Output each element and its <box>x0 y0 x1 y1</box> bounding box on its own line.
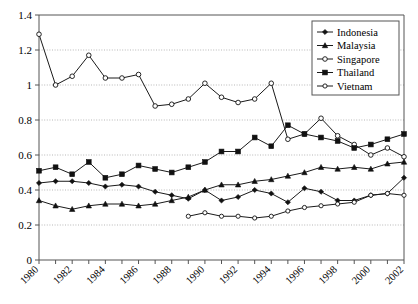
legend-item-label: Malaysia <box>337 40 376 51</box>
marker-square <box>37 168 42 173</box>
marker-square <box>252 135 257 140</box>
x-axis-tick-labels: 1980198219841986198819901992199419961998… <box>18 260 406 286</box>
marker-diamond <box>269 191 274 196</box>
marker-circle <box>53 83 58 88</box>
marker-circle-small <box>369 193 373 197</box>
marker-diamond <box>252 187 257 192</box>
marker-circle-small <box>253 216 257 220</box>
marker-square <box>269 144 274 149</box>
marker-circle <box>319 116 324 121</box>
marker-square <box>302 132 307 137</box>
marker-circle <box>269 81 274 86</box>
marker-square <box>236 149 241 154</box>
marker-circle <box>236 100 241 105</box>
marker-circle <box>252 97 257 102</box>
marker-square <box>86 160 91 165</box>
legend-item-label: Thailand <box>337 67 375 78</box>
marker-circle-small <box>269 214 273 218</box>
marker-square <box>136 163 141 168</box>
marker-square <box>53 165 58 170</box>
y-tick-label: 1 <box>27 79 33 91</box>
series-malaysia <box>36 159 406 211</box>
marker-circle <box>169 102 174 107</box>
line-chart: 00.20.40.60.811.21.4 1980198219841986198… <box>0 0 418 304</box>
marker-circle <box>86 53 91 58</box>
x-tick-label: 1992 <box>217 264 240 287</box>
marker-circle-small <box>319 204 323 208</box>
marker-circle-small <box>286 209 290 213</box>
marker-square <box>120 172 125 177</box>
marker-circle-small <box>385 191 389 195</box>
marker-circle <box>186 97 191 102</box>
chart-legend: IndonesiaMalaysiaSingaporeThailandVietna… <box>312 21 399 95</box>
marker-circle <box>37 32 42 37</box>
marker-diamond <box>36 180 41 185</box>
x-tick-label: 1984 <box>84 263 107 286</box>
marker-diamond <box>86 180 91 185</box>
y-tick-label: 1.2 <box>18 44 32 56</box>
marker-square <box>385 137 390 142</box>
marker-square <box>169 170 174 175</box>
marker-square <box>103 175 108 180</box>
marker-diamond <box>103 184 108 189</box>
x-tick-label: 2000 <box>350 264 373 287</box>
marker-square <box>203 160 208 165</box>
marker-circle-small <box>219 214 223 218</box>
legend-item-label: Indonesia <box>337 27 378 38</box>
marker-square <box>186 165 191 170</box>
y-tick-label: 0.6 <box>18 149 32 161</box>
x-tick-label: 1990 <box>184 264 207 287</box>
legend-item-label: Singapore <box>337 54 380 65</box>
marker-diamond <box>119 182 124 187</box>
marker-circle <box>286 137 291 142</box>
marker-circle <box>120 76 125 81</box>
marker-circle-small <box>336 202 340 206</box>
marker-diamond <box>136 184 141 189</box>
x-tick-label: 1986 <box>117 264 140 287</box>
marker-square <box>368 142 373 147</box>
marker-circle <box>335 133 340 138</box>
marker-circle <box>385 146 390 151</box>
marker-diamond <box>219 198 224 203</box>
marker-circle-small <box>402 193 406 197</box>
x-tick-label: 1980 <box>18 264 41 287</box>
marker-diamond <box>235 194 240 199</box>
marker-circle <box>153 104 158 109</box>
x-tick-label: 2002 <box>383 264 406 287</box>
marker-square <box>219 149 224 154</box>
marker-circle <box>70 74 75 79</box>
marker-circle-small <box>323 84 327 88</box>
y-tick-label: 0.2 <box>18 219 32 231</box>
marker-circle <box>219 95 224 100</box>
marker-square <box>153 167 158 172</box>
marker-square <box>402 132 407 137</box>
x-tick-label: 1994 <box>250 263 273 286</box>
y-tick-label: 1.4 <box>18 9 32 21</box>
marker-triangle <box>36 198 41 203</box>
marker-circle-small <box>352 200 356 204</box>
y-axis-tick-labels: 00.20.40.60.811.21.4 <box>18 9 39 266</box>
marker-diamond <box>53 179 58 184</box>
legend-item-label: Vietnam <box>337 81 373 92</box>
y-tick-label: 0.4 <box>18 184 32 196</box>
marker-square <box>335 139 340 144</box>
x-tick-label: 1982 <box>51 264 74 287</box>
y-tick-label: 0.8 <box>18 114 32 126</box>
marker-circle <box>402 154 407 159</box>
marker-square <box>285 123 290 128</box>
x-tick-label: 1998 <box>316 264 339 287</box>
marker-circle <box>203 81 208 86</box>
marker-circle <box>136 72 141 77</box>
series-thailand <box>37 123 407 180</box>
marker-square <box>70 172 75 177</box>
chart-container: 00.20.40.60.811.21.4 1980198219841986198… <box>0 0 418 304</box>
marker-circle <box>323 57 328 62</box>
marker-square <box>323 70 328 75</box>
marker-circle-small <box>186 214 190 218</box>
x-tick-label: 1996 <box>283 264 306 287</box>
marker-square <box>319 135 324 140</box>
marker-circle-small <box>203 211 207 215</box>
marker-square <box>352 146 357 151</box>
marker-circle-small <box>302 205 306 209</box>
marker-circle <box>369 153 374 158</box>
